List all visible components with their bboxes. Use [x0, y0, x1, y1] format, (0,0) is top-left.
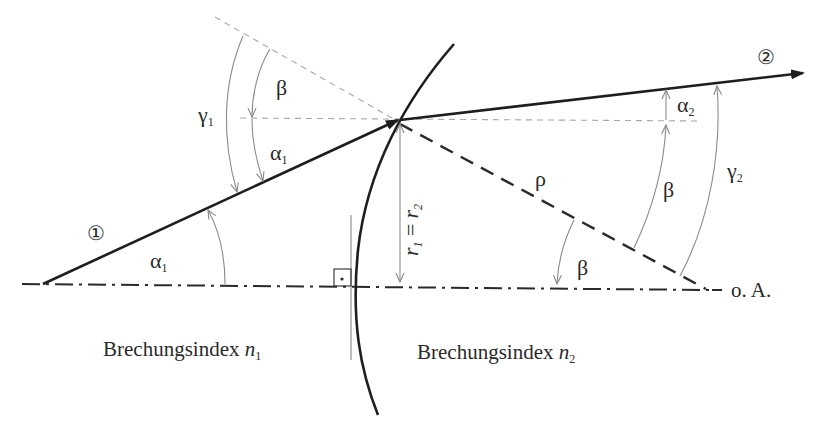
beta-right-arc [634, 125, 666, 248]
optical-axis [22, 284, 712, 290]
gamma1-label: γ1 [197, 102, 214, 129]
alpha1-top-arc [252, 119, 263, 181]
beta-top-label: β [276, 75, 287, 100]
incident-ray [43, 120, 398, 284]
horizontal-reference-line [240, 118, 700, 121]
normal-extension-line [215, 17, 392, 118]
radius-line-rho [400, 124, 706, 289]
gamma2-label: γ2 [726, 158, 743, 185]
gamma1-arc [226, 36, 243, 192]
beta-right-label: β [663, 177, 674, 202]
beta-top-arc [252, 49, 270, 117]
refraction-diagram: ① ② γ1 β α1 α1 ρ β β α2 γ2 r1=r2 o. A. B… [0, 0, 821, 448]
beta-center-label: β [577, 255, 588, 280]
medium-1-label: Brechungsindex n1 [103, 337, 261, 363]
alpha2-label: α2 [677, 92, 695, 119]
alpha1-bottom-arc [208, 210, 225, 284]
beta-center-arc [557, 220, 574, 284]
optical-axis-label: o. A. [731, 278, 771, 302]
refracted-ray-marker: ② [757, 46, 775, 68]
right-angle-dot [340, 277, 343, 280]
alpha1-top-label: α1 [270, 140, 288, 167]
height-label: r1=r2 [398, 204, 425, 256]
alpha1-bottom-label: α1 [150, 248, 168, 275]
refracted-ray [400, 73, 803, 120]
svg-text:r1=r2: r1=r2 [398, 204, 425, 256]
incident-ray-marker: ① [87, 222, 105, 244]
rho-label: ρ [535, 166, 546, 191]
medium-2-label: Brechungsindex n2 [417, 340, 575, 366]
